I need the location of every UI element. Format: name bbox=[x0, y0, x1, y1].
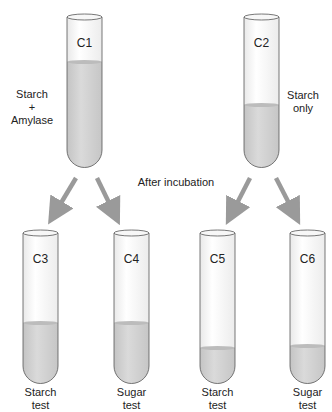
c1-contents-line1: Starch bbox=[0, 88, 64, 101]
c6-caption: Sugar test bbox=[280, 386, 332, 412]
c6-caption-line1: Sugar bbox=[280, 386, 332, 399]
c3-caption: Starch test bbox=[13, 386, 68, 412]
arrow-c1-to-c4 bbox=[97, 178, 114, 213]
arrow-c2-to-c5 bbox=[232, 178, 250, 213]
arrow-c2-to-c6 bbox=[276, 178, 294, 213]
diagram-canvas bbox=[0, 0, 332, 412]
c6-caption-line2: test bbox=[280, 399, 332, 412]
liquid-c1 bbox=[67, 62, 102, 167]
tube-label-c5: C5 bbox=[200, 253, 235, 266]
tube-label-c6: C6 bbox=[290, 253, 325, 266]
liquid-c2 bbox=[244, 105, 279, 168]
liquid-c3 bbox=[23, 323, 58, 384]
c2-contents-label: Starch only bbox=[282, 89, 324, 115]
c1-contents-line3: Amylase bbox=[0, 114, 64, 127]
liquid-c6 bbox=[290, 346, 325, 384]
liquid-c4 bbox=[114, 323, 149, 384]
tube-label-c1: C1 bbox=[67, 37, 102, 50]
after-incubation-label: After incubation bbox=[134, 176, 218, 189]
c5-caption: Starch test bbox=[190, 386, 245, 412]
c5-caption-line2: test bbox=[190, 399, 245, 412]
tube-label-c2: C2 bbox=[244, 37, 279, 50]
tube-label-c3: C3 bbox=[23, 253, 58, 266]
c4-caption-line1: Sugar bbox=[104, 386, 159, 399]
c4-caption-line2: test bbox=[104, 399, 159, 412]
c2-contents-line1: Starch bbox=[282, 89, 324, 102]
arrow-c1-to-c3 bbox=[55, 178, 76, 213]
c1-contents-label: Starch + Amylase bbox=[0, 88, 64, 127]
c2-contents-line2: only bbox=[282, 102, 324, 115]
tube-label-c4: C4 bbox=[114, 253, 149, 266]
c4-caption: Sugar test bbox=[104, 386, 159, 412]
c5-caption-line1: Starch bbox=[190, 386, 245, 399]
c3-caption-line2: test bbox=[13, 399, 68, 412]
c3-caption-line1: Starch bbox=[13, 386, 68, 399]
c1-contents-line2: + bbox=[0, 101, 64, 114]
